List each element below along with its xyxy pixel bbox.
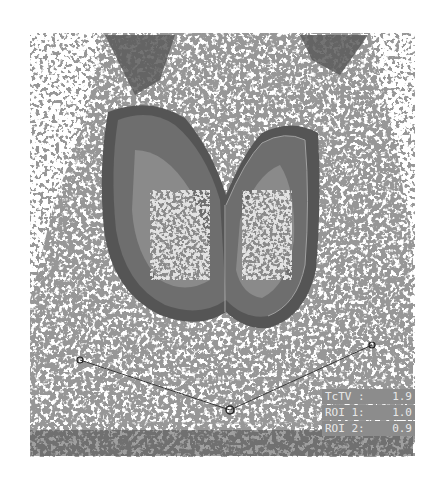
measurement-roi-1: ROI 1: 1.0 xyxy=(322,405,415,420)
measurement-value: 1.0 xyxy=(392,405,412,420)
measurement-label: ROI 1: xyxy=(325,405,365,420)
measurement-label: ROI 2: xyxy=(325,421,365,436)
measurement-label: TcTV : xyxy=(325,389,365,404)
measurement-roi-2: ROI 2: 0.9 xyxy=(322,421,415,436)
measurement-value: 1.9 xyxy=(392,389,412,404)
measurement-value: 0.9 xyxy=(392,421,412,436)
measurement-tctv: TcTV : 1.9 xyxy=(322,389,415,404)
